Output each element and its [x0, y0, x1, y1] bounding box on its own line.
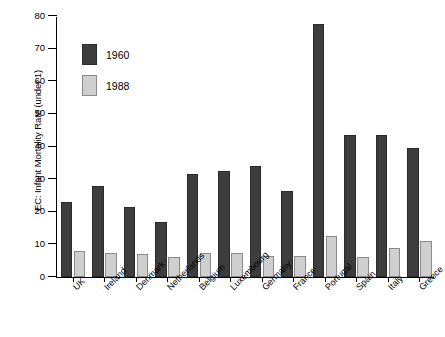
y-tick: 30 [48, 178, 57, 179]
bar-group [281, 17, 306, 277]
y-tick: 80 [48, 15, 57, 16]
y-tick: 0 [48, 276, 57, 277]
y-tick-label: 40 [34, 140, 45, 151]
bar-1960 [61, 202, 73, 277]
bar-group [407, 17, 432, 277]
bar-1988 [74, 251, 86, 277]
legend-label: 1988 [106, 80, 129, 92]
bar-group [187, 17, 212, 277]
legend-label: 1960 [106, 49, 129, 61]
bar-group [218, 17, 243, 277]
y-tick-label: 70 [34, 42, 45, 53]
y-tick-label: 20 [34, 205, 45, 216]
bar-1960 [407, 148, 419, 277]
y-tick: 40 [48, 146, 57, 147]
y-tick: 70 [48, 48, 57, 49]
bar-1960 [92, 186, 104, 277]
y-tick-label: 0 [40, 271, 45, 282]
chart-legend: 1960 1988 [82, 44, 129, 106]
bar-1960 [124, 207, 136, 277]
y-tick-label: 30 [34, 173, 45, 184]
y-tick: 10 [48, 243, 57, 244]
bar-group [155, 17, 180, 277]
legend-item-1988: 1988 [82, 75, 129, 96]
y-tick-label: 80 [34, 10, 45, 21]
bar-1960 [344, 135, 356, 277]
bar-1960 [313, 24, 325, 277]
bar-group [376, 17, 401, 277]
bar-group [344, 17, 369, 277]
bar-1960 [376, 135, 388, 277]
y-tick: 60 [48, 80, 57, 81]
light-swatch-icon [82, 75, 97, 96]
bar-group [313, 17, 338, 277]
y-tick: 20 [48, 211, 57, 212]
y-tick: 50 [48, 113, 57, 114]
legend-item-1960: 1960 [82, 44, 129, 65]
bar-group [250, 17, 275, 277]
y-tick-label: 10 [34, 238, 45, 249]
y-tick-label: 50 [34, 107, 45, 118]
dark-swatch-icon [82, 44, 97, 65]
y-tick-label: 60 [34, 75, 45, 86]
